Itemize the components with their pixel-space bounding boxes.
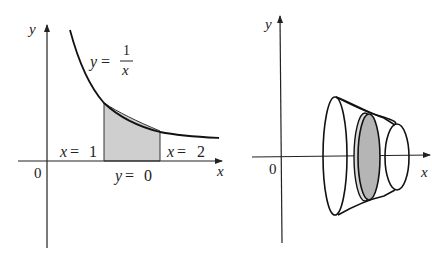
figure: y x 0 y = 1 x x = 1 x = 2 — [0, 0, 432, 257]
curve-label-lhs: y — [88, 53, 98, 71]
svg-text:0: 0 — [144, 167, 152, 184]
y-axis-label: y — [27, 21, 36, 37]
x-axis — [252, 155, 430, 157]
curve-y-equals-1-over-x — [70, 30, 219, 138]
svg-text:2: 2 — [197, 143, 205, 160]
origin-label: 0 — [269, 161, 277, 177]
diagram-canvas: y x 0 y = 1 x x = 1 x = 2 — [0, 0, 432, 257]
shaded-region — [104, 103, 160, 161]
y-axis-label: y — [263, 16, 272, 32]
svg-text:y: y — [113, 167, 123, 185]
curve-label-numerator: 1 — [123, 43, 130, 58]
curve-label-eq: = — [101, 53, 110, 70]
cross-section-disk — [354, 113, 380, 201]
x-axis-label: x — [420, 164, 428, 180]
svg-text:1: 1 — [89, 143, 97, 160]
curve-label: y = 1 x — [88, 43, 133, 78]
bound-y-equals-0: y = 0 — [113, 167, 152, 185]
svg-text:x: x — [59, 143, 67, 160]
svg-text:=: = — [70, 143, 79, 160]
bound-x-equals-1: x = 1 — [59, 143, 97, 160]
svg-text:x: x — [166, 143, 174, 160]
x-axis-label: x — [216, 163, 224, 179]
origin-label: 0 — [34, 165, 42, 181]
svg-text:=: = — [177, 143, 186, 160]
right-end-ellipse — [385, 124, 409, 190]
bound-x-equals-2: x = 2 — [166, 143, 205, 160]
left-panel: y x 0 y = 1 x x = 1 x = 2 — [18, 21, 224, 248]
y-axis — [280, 16, 282, 243]
right-panel: y x 0 — [252, 16, 430, 243]
svg-text:=: = — [125, 167, 134, 184]
curve-label-denominator: x — [121, 62, 129, 78]
